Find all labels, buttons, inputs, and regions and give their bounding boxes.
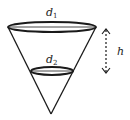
cone-diagram-svg: d1 d2 h (0, 0, 130, 120)
height-arrow (102, 29, 110, 73)
cone-diagram: d1 d2 h (0, 0, 130, 120)
cone-left-side (8, 27, 51, 114)
d1-label: d1 (46, 6, 58, 20)
d2-label: d2 (46, 53, 58, 67)
h-label: h (117, 45, 124, 58)
